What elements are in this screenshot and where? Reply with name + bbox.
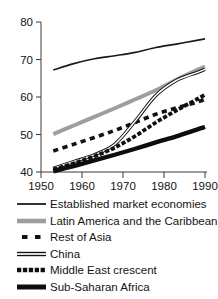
y-tick-label: 50 bbox=[20, 129, 33, 141]
very-thick-line-swatch bbox=[17, 281, 46, 293]
x-tick-label: 1960 bbox=[69, 180, 95, 192]
thin-solid-line-swatch bbox=[17, 198, 46, 210]
double-line-swatch bbox=[17, 248, 46, 260]
legend-item[interactable]: China bbox=[0, 246, 218, 263]
legend-item[interactable]: Sub-Saharan Africa bbox=[0, 279, 218, 296]
short-dash-line-swatch bbox=[17, 264, 46, 276]
y-tick-label: 80 bbox=[20, 16, 33, 28]
legend-item-label: Sub-Saharan Africa bbox=[50, 281, 150, 293]
series-line-outer bbox=[53, 69, 205, 168]
thick-gray-line-swatch bbox=[17, 215, 46, 227]
figure-container: 4050607080 19501960197019801990 Establis… bbox=[0, 0, 218, 299]
series-line bbox=[53, 127, 205, 171]
legend-item[interactable]: Rest of Asia bbox=[0, 229, 218, 246]
legend-item-label: China bbox=[50, 248, 80, 260]
series-china bbox=[53, 69, 205, 168]
series-line bbox=[53, 39, 205, 70]
legend-item[interactable]: Latin America and the Caribbean bbox=[0, 213, 218, 230]
legend-item-label: Middle East crescent bbox=[50, 264, 157, 276]
series-line-inner bbox=[53, 69, 205, 168]
series-established-market-economies bbox=[53, 39, 205, 70]
series-sub-saharan-africa bbox=[53, 127, 205, 171]
y-axis-ticks: 4050607080 bbox=[20, 16, 41, 178]
x-tick-label: 1990 bbox=[192, 180, 218, 192]
x-axis-ticks: 19501960197019801990 bbox=[28, 172, 218, 192]
y-tick-label: 70 bbox=[20, 54, 33, 66]
long-dash-line-swatch bbox=[17, 231, 46, 243]
y-tick-label: 40 bbox=[20, 166, 33, 178]
x-tick-label: 1970 bbox=[110, 180, 136, 192]
chart-legend: Established market economiesLatin Americ… bbox=[0, 196, 218, 299]
line-chart-plot: 4050607080 19501960197019801990 bbox=[0, 0, 218, 196]
legend-item-label: Established market economies bbox=[50, 198, 207, 210]
legend-item-label: Rest of Asia bbox=[50, 231, 111, 243]
x-tick-label: 1980 bbox=[151, 180, 177, 192]
legend-item[interactable]: Middle East crescent bbox=[0, 262, 218, 279]
legend-item-label: Latin America and the Caribbean bbox=[50, 215, 218, 227]
series-group bbox=[53, 39, 205, 171]
y-tick-label: 60 bbox=[20, 91, 33, 103]
x-tick-label: 1950 bbox=[28, 180, 54, 192]
legend-item[interactable]: Established market economies bbox=[0, 196, 218, 213]
